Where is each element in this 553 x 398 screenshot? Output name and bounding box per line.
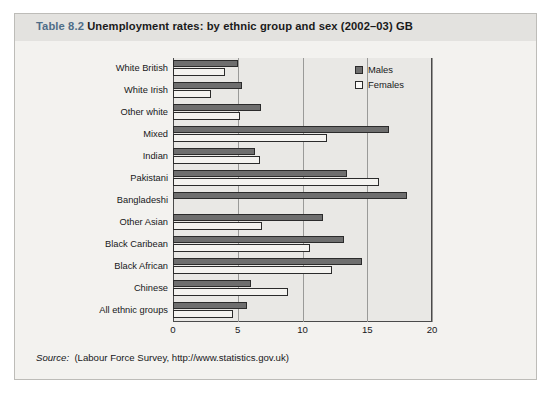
chart-plot-area [173,58,432,322]
bar-females [173,266,332,273]
gridline-20 [432,58,433,322]
bar-females [173,112,240,119]
bar-males [173,104,261,111]
bar-males [173,170,347,177]
bar-males [173,82,242,89]
bar-females [173,244,310,251]
table-title: Unemployment rates: by ethnic group and … [87,20,413,32]
bar-row [173,278,432,300]
legend-swatch-males [355,66,363,74]
x-tick-label-0: 0 [170,324,175,335]
bar-row [173,168,432,190]
bar-row [173,102,432,124]
bar-males [173,126,389,133]
legend-swatch-females [355,81,363,89]
table-caption: Table 8.2 Unemployment rates: by ethnic … [36,20,413,32]
bar-males [173,280,251,287]
bar-males [173,214,323,221]
legend-item: Males [355,63,427,76]
x-tick-label-5: 5 [235,324,240,335]
category-label: White Irish [124,85,168,95]
category-label: Pakistani [130,173,168,183]
bar-females [173,134,327,141]
x-tick-label-10: 10 [297,324,308,335]
category-label: Indian [143,151,168,161]
category-label: Bangladeshi [117,195,168,205]
bar-row [173,300,432,322]
table-number: Table 8.2 [36,20,84,32]
bar-females [173,310,233,317]
bar-row [173,212,432,234]
category-label: All ethnic groups [99,305,168,315]
category-label: Black Caribean [105,239,168,249]
bar-row [173,146,432,168]
bar-row [173,234,432,256]
bar-males [173,60,238,67]
bar-males [173,258,362,265]
category-label: Chinese [134,283,168,293]
bar-males [173,192,407,199]
x-tick-label-15: 15 [362,324,373,335]
legend-item: Females [355,78,427,91]
legend-label: Females [368,79,404,90]
bar-males [173,302,247,309]
category-label: Black African [114,261,168,271]
bar-females [173,156,260,163]
screenshot-page: Table 8.2 Unemployment rates: by ethnic … [0,0,553,398]
source-note: Source: (Labour Force Survey, http://www… [36,352,289,363]
source-label: Source: [36,352,69,363]
bar-males [173,148,255,155]
bar-females [173,68,225,75]
bar-rows [173,58,432,322]
x-tick-label-20: 20 [427,324,438,335]
category-label: Mixed [143,129,168,139]
category-label: White British [116,63,168,73]
bar-row [173,190,432,212]
bar-females [173,222,262,229]
bar-row [173,256,432,278]
bar-females [173,178,379,185]
bar-females [173,90,211,97]
source-text: (Labour Force Survey, http://www.statist… [74,352,289,363]
chart-legend: MalesFemales [355,63,427,93]
legend-label: Males [368,64,393,75]
x-axis-tick-labels: 05101520 [173,324,435,340]
category-label: Other white [120,107,168,117]
bar-row [173,124,432,146]
category-axis-labels: White BritishWhite IrishOther whiteMixed… [60,58,168,322]
bar-females [173,288,288,295]
category-label: Other Asian [119,217,168,227]
bar-males [173,236,344,243]
